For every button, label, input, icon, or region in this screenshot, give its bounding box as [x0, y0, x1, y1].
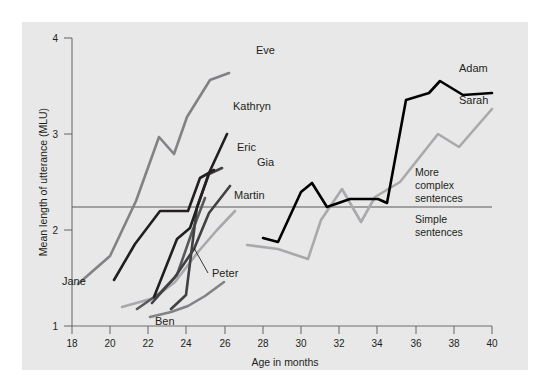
y-tick-label-2: 2 — [52, 225, 58, 236]
series-label-ben: Ben — [155, 315, 175, 327]
series-line-adam — [263, 81, 492, 242]
series-line-gia — [122, 211, 235, 307]
y-axis-title: Mean length of utterance (MLU) — [37, 108, 49, 256]
zone-annotation-more-complex: More complex sentences — [415, 166, 463, 204]
y-tick-labels: 4 3 2 1 — [52, 33, 58, 332]
series-label-kathryn: Kathryn — [233, 100, 271, 112]
series-label-eve: Eve — [256, 44, 275, 56]
zone-annotation-simple: Simple sentences — [415, 213, 463, 238]
zone-label-simple-line2: sentences — [415, 226, 463, 238]
zone-label-simple-line1: Simple — [415, 213, 447, 225]
series-label-martin: Martin — [234, 189, 265, 201]
zone-label-more-complex-line1: More — [415, 166, 439, 178]
series-label-adam: Adam — [459, 62, 488, 74]
x-tick-label-32: 32 — [333, 338, 345, 349]
x-tick-label-20: 20 — [104, 338, 116, 349]
figure-container: 4 3 2 1 18 20 — [0, 0, 550, 388]
x-tick-label-30: 30 — [295, 338, 307, 349]
zone-label-more-complex-line3: sentences — [415, 192, 463, 204]
x-tick-label-40: 40 — [486, 338, 498, 349]
series-label-eric: Eric — [237, 141, 256, 153]
zone-label-more-complex-line2: complex — [415, 179, 455, 191]
x-tick-label-36: 36 — [410, 338, 422, 349]
series-label-jane: Jane — [62, 275, 86, 287]
x-tick-label-24: 24 — [180, 338, 192, 349]
y-tick-label-3: 3 — [52, 129, 58, 140]
x-ticks — [72, 326, 492, 334]
x-tick-label-28: 28 — [257, 338, 269, 349]
y-tick-label-1: 1 — [52, 321, 58, 332]
x-tick-label-38: 38 — [448, 338, 460, 349]
series-label-sarah: Sarah — [459, 94, 488, 106]
series-label-gia: Gia — [257, 156, 275, 168]
y-tick-label-4: 4 — [52, 33, 58, 44]
x-tick-label-26: 26 — [219, 338, 231, 349]
series-label-peter: Peter — [212, 267, 239, 279]
x-tick-labels: 18 20 22 24 26 28 30 32 34 36 38 40 — [66, 338, 498, 349]
x-tick-label-34: 34 — [371, 338, 383, 349]
line-chart: 4 3 2 1 18 20 — [0, 0, 550, 388]
series-line-jane — [114, 170, 214, 280]
leader-line-peter — [194, 248, 208, 273]
x-tick-label-22: 22 — [142, 338, 154, 349]
x-tick-label-18: 18 — [66, 338, 78, 349]
x-axis-title: Age in months — [251, 356, 318, 368]
